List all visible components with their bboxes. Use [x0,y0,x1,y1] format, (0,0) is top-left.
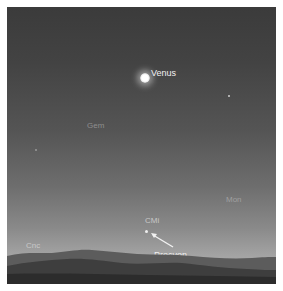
horizon-hills [7,244,276,284]
sky-chart-image: Venus Gem Mon CMi Procyon Cnc [7,7,276,284]
pointer-arrow-icon [7,7,276,284]
